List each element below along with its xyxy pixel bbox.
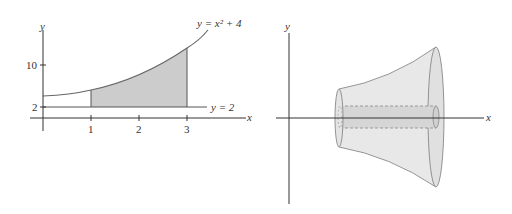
inner-cylinder xyxy=(340,106,436,128)
y-tick-label-2: 2 xyxy=(32,101,38,113)
diagram-canvas: y x 10 2 1 2 3 y = x² + 4 y = 2 y x xyxy=(0,0,512,214)
right-x-axis-label: x xyxy=(485,111,491,123)
left-y-axis-label: y xyxy=(39,20,45,32)
left-x-axis-label: x xyxy=(246,111,252,123)
inner-cylinder-right-end xyxy=(433,106,439,128)
x-tick-label-3: 3 xyxy=(184,123,190,135)
x-tick-label-2: 2 xyxy=(136,123,142,135)
line-label: y = 2 xyxy=(210,101,235,113)
y-tick-label-10: 10 xyxy=(26,59,38,71)
curve-label: y = x² + 4 xyxy=(196,17,242,29)
x-tick-label-1: 1 xyxy=(88,123,94,135)
right-y-axis-label: y xyxy=(284,20,290,32)
right-plot: y x xyxy=(276,20,491,204)
left-plot: y x 10 2 1 2 3 y = x² + 4 y = 2 xyxy=(26,17,252,135)
